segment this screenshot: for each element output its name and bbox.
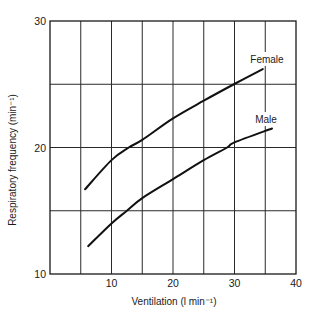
x-tick-label: 10 [106,277,118,289]
y-tick-label: 10 [34,268,46,280]
y-axis-ticks: 102030 [34,15,46,280]
y-tick-label: 20 [34,142,46,154]
x-tick-label: 20 [167,277,179,289]
legend-label-male: Male [255,114,277,125]
series-line-male [88,129,272,247]
legend-label-female: Female [250,54,284,65]
x-tick-label: 40 [290,277,302,289]
x-tick-label: 30 [229,277,241,289]
y-axis-label: Respiratory frequency (min⁻¹) [7,94,18,226]
x-axis-ticks: 10203040 [106,277,302,289]
y-tick-label: 30 [34,15,46,27]
x-axis-label: Ventilation (l min⁻¹) [131,296,216,307]
respiratory-frequency-chart: 102030 10203040 Ventilation (l min⁻¹) Re… [0,0,316,322]
data-series [85,52,286,246]
